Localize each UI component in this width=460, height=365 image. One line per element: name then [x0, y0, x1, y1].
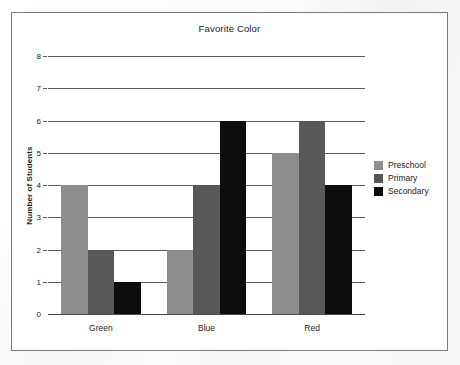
legend-item-label: Primary	[388, 174, 417, 183]
bar-blue-secondary	[220, 121, 247, 315]
chart-legend: PreschoolPrimarySecondary	[374, 159, 446, 198]
screenshot-page: Favorite Color Number of Students 012345…	[0, 0, 460, 365]
plot-area: 012345678GreenBlueRed	[48, 56, 365, 314]
y-axis-tick-label: 3	[37, 213, 41, 222]
chart-container: Favorite Color Number of Students 012345…	[11, 12, 448, 351]
y-axis-tick-label: 7	[37, 84, 41, 93]
y-axis-tick-label: 1	[37, 277, 41, 286]
y-axis-tick-label: 5	[37, 148, 41, 157]
y-axis-tick-mark	[43, 217, 47, 218]
bar-red-primary	[299, 121, 326, 315]
y-axis-title: Number of Students	[23, 56, 35, 314]
legend-color-swatch	[374, 187, 383, 196]
y-axis-title-text: Number of Students	[25, 146, 34, 224]
legend-item-label: Secondary	[388, 187, 429, 196]
x-axis-tick-label: Green	[89, 323, 113, 333]
y-axis-tick-mark	[43, 282, 47, 283]
x-axis-tick-label: Red	[304, 323, 320, 333]
bar-blue-preschool	[167, 250, 194, 315]
legend-item-label: Preschool	[388, 161, 426, 170]
bar-red-preschool	[272, 153, 299, 314]
x-axis-line	[48, 314, 365, 315]
y-axis-tick-mark	[43, 56, 47, 57]
y-axis-tick-label: 8	[37, 52, 41, 61]
legend-item-preschool: Preschool	[374, 159, 446, 172]
legend-item-secondary: Secondary	[374, 185, 446, 198]
y-axis-tick-label: 0	[37, 310, 41, 319]
bar-green-preschool	[61, 185, 88, 314]
bar-green-primary	[88, 250, 115, 315]
y-axis-tick-mark	[43, 250, 47, 251]
y-axis-tick-label: 2	[37, 245, 41, 254]
gridline	[48, 88, 365, 89]
chart-title: Favorite Color	[12, 23, 447, 34]
legend-color-swatch	[374, 161, 383, 170]
gridline	[48, 56, 365, 57]
y-axis-tick-mark	[43, 185, 47, 186]
bar-red-secondary	[325, 185, 352, 314]
legend-item-primary: Primary	[374, 172, 446, 185]
x-axis-tick-label: Blue	[198, 323, 215, 333]
y-axis-tick-label: 4	[37, 181, 41, 190]
y-axis-tick-label: 6	[37, 116, 41, 125]
bar-blue-primary	[193, 185, 220, 314]
y-axis-tick-mark	[43, 121, 47, 122]
legend-color-swatch	[374, 174, 383, 183]
y-axis-tick-mark	[43, 153, 47, 154]
bar-green-secondary	[114, 282, 141, 314]
y-axis-tick-mark	[43, 88, 47, 89]
